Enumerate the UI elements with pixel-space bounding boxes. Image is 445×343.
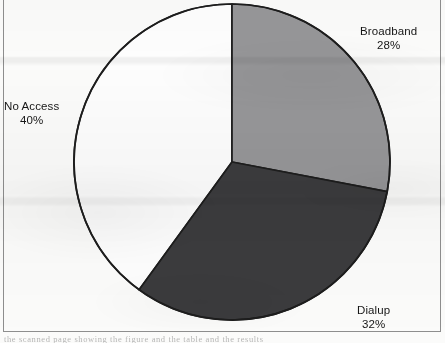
pie-label-broadband-percent: 28% [360, 38, 417, 52]
pie-label-dialup-percent: 32% [357, 317, 390, 331]
pie-label-dialup-name: Dialup [357, 304, 390, 316]
pie-label-broadband: Broadband 28% [360, 24, 417, 52]
pie-label-no-access-name: No Access [4, 100, 59, 112]
pie-label-no-access: No Access 40% [4, 99, 59, 127]
scanned-page: Broadband 28% No Access 40% Dialup 32% t… [0, 0, 445, 343]
pie-label-dialup: Dialup 32% [357, 303, 390, 331]
pie-label-broadband-name: Broadband [360, 25, 417, 37]
pie-label-no-access-percent: 40% [4, 113, 59, 127]
page-bleed-through-text: the scanned page showing the figure and … [4, 334, 441, 343]
